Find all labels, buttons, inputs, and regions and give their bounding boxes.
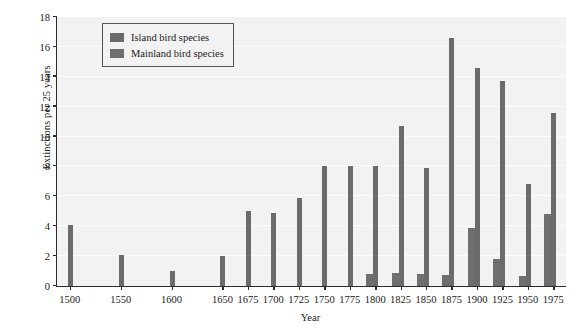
gridline bbox=[57, 106, 566, 107]
x-axis-tick-label: 1825 bbox=[390, 294, 411, 305]
gridline bbox=[57, 76, 566, 77]
x-axis-tick bbox=[401, 286, 402, 290]
bar-island bbox=[246, 211, 251, 286]
x-axis-tick-label: 1975 bbox=[543, 294, 564, 305]
x-axis-tick bbox=[222, 286, 223, 290]
x-axis-tick-label: 1950 bbox=[517, 294, 538, 305]
bar-island bbox=[500, 81, 505, 286]
gridline bbox=[57, 136, 566, 137]
legend-label: Mainland bird species bbox=[131, 48, 224, 59]
y-axis-tick bbox=[53, 135, 57, 136]
y-axis-tick bbox=[53, 285, 57, 286]
y-axis-tick-label: 16 bbox=[40, 41, 51, 52]
y-axis-tick bbox=[53, 165, 57, 166]
y-axis-title: Extinctions per 25 years bbox=[41, 0, 52, 248]
x-axis-tick-label: 1850 bbox=[416, 294, 437, 305]
bar-island bbox=[526, 184, 531, 286]
x-axis-tick bbox=[121, 286, 122, 290]
x-axis-tick bbox=[299, 286, 300, 290]
x-axis-tick bbox=[172, 286, 173, 290]
extinctions-bar-chart: Extinctions per 25 years 024681012141618… bbox=[0, 0, 577, 335]
x-axis-tick-label: 1650 bbox=[212, 294, 233, 305]
y-axis-tick-label: 2 bbox=[45, 251, 50, 262]
y-axis-tick-label: 14 bbox=[40, 71, 51, 82]
y-axis-tick-label: 8 bbox=[45, 161, 50, 172]
y-axis-tick bbox=[53, 16, 57, 17]
x-axis-tick-label: 1700 bbox=[263, 294, 284, 305]
chart-legend: Island bird speciesMainland bird species bbox=[102, 23, 234, 67]
y-axis-tick bbox=[53, 225, 57, 226]
legend-item: Mainland bird species bbox=[110, 45, 224, 61]
bar-island bbox=[424, 168, 429, 286]
x-axis-tick-label: 1675 bbox=[237, 294, 258, 305]
x-axis-tick-label: 1725 bbox=[288, 294, 309, 305]
x-axis-tick-label: 1775 bbox=[339, 294, 360, 305]
x-axis-tick bbox=[273, 286, 274, 290]
bar-island bbox=[119, 255, 124, 286]
x-axis-tick bbox=[477, 286, 478, 290]
legend-item: Island bird species bbox=[110, 29, 224, 45]
gridline bbox=[57, 255, 566, 256]
x-axis-tick-label: 1900 bbox=[466, 294, 487, 305]
bar-island bbox=[68, 225, 73, 286]
y-axis-tick-label: 12 bbox=[40, 101, 51, 112]
x-axis-tick bbox=[324, 286, 325, 290]
x-axis-tick-label: 1750 bbox=[314, 294, 335, 305]
bar-island bbox=[551, 113, 556, 286]
y-axis-tick-label: 10 bbox=[40, 131, 51, 142]
y-axis-tick bbox=[53, 105, 57, 106]
legend-swatch-icon bbox=[110, 49, 124, 58]
bar-island bbox=[170, 271, 175, 286]
bar-island bbox=[348, 166, 353, 286]
bar-island bbox=[373, 166, 378, 286]
bar-island bbox=[449, 38, 454, 286]
x-axis-tick bbox=[248, 286, 249, 290]
y-axis-tick-label: 4 bbox=[45, 221, 50, 232]
x-axis-tick bbox=[426, 286, 427, 290]
y-axis-tick-label: 18 bbox=[40, 12, 51, 23]
x-axis-tick-label: 1550 bbox=[110, 294, 131, 305]
x-axis-tick bbox=[451, 286, 452, 290]
y-axis-tick bbox=[53, 46, 57, 47]
x-axis-title: Year bbox=[56, 312, 565, 323]
bar-island bbox=[220, 256, 225, 286]
plot-area: 024681012141618 150015501600165016751700… bbox=[56, 17, 566, 287]
x-axis-tick-label: 1600 bbox=[161, 294, 182, 305]
y-axis-tick bbox=[53, 75, 57, 76]
x-axis-tick bbox=[350, 286, 351, 290]
gridline bbox=[57, 225, 566, 226]
y-axis-tick-label: 0 bbox=[45, 281, 50, 292]
y-axis-tick-label: 6 bbox=[45, 191, 50, 202]
bar-island bbox=[475, 68, 480, 286]
legend-label: Island bird species bbox=[131, 32, 209, 43]
gridline bbox=[57, 195, 566, 196]
x-axis-tick bbox=[375, 286, 376, 290]
bar-island bbox=[399, 126, 404, 286]
x-axis-tick-label: 1875 bbox=[441, 294, 462, 305]
gridline bbox=[57, 165, 566, 166]
bar-island bbox=[297, 198, 302, 286]
x-axis-tick-label: 1800 bbox=[365, 294, 386, 305]
y-axis-tick bbox=[53, 255, 57, 256]
x-axis-tick-label: 1500 bbox=[59, 294, 80, 305]
x-axis-tick bbox=[70, 286, 71, 290]
x-axis-tick bbox=[528, 286, 529, 290]
x-axis-tick bbox=[553, 286, 554, 290]
x-axis-tick bbox=[502, 286, 503, 290]
y-axis-tick bbox=[53, 195, 57, 196]
x-axis-tick-label: 1925 bbox=[492, 294, 513, 305]
legend-swatch-icon bbox=[110, 33, 124, 42]
bar-island bbox=[322, 166, 327, 286]
bar-island bbox=[271, 213, 276, 286]
